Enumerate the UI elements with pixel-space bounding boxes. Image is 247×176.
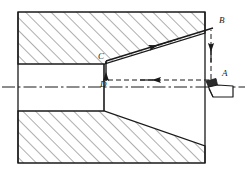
taper-boring-figure: B A C D xyxy=(0,0,247,176)
label-point-b: B xyxy=(219,16,225,25)
label-point-a: A xyxy=(222,69,228,78)
node-c xyxy=(105,61,107,63)
drawing-canvas xyxy=(0,0,247,176)
label-point-c: C xyxy=(98,52,104,61)
workpiece-lower-wall xyxy=(18,111,205,163)
workpiece-upper-wall xyxy=(18,12,205,64)
label-point-d: D xyxy=(100,80,107,89)
lathe-cutting-tool xyxy=(206,79,233,98)
